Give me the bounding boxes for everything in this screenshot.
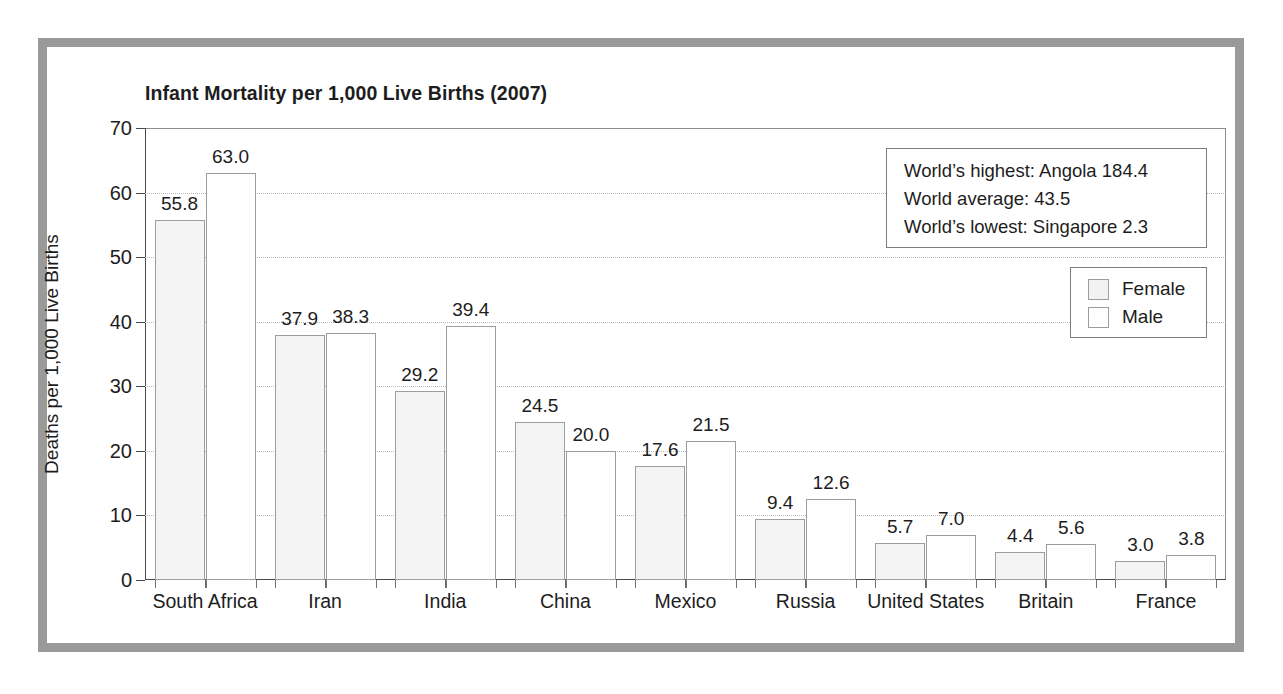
bar-value-label: 5.7 xyxy=(887,516,913,538)
bar-female[interactable] xyxy=(515,422,565,580)
y-tick-label: 10 xyxy=(110,504,132,527)
y-tick-mark xyxy=(136,451,145,452)
legend-item-female[interactable]: Female xyxy=(1088,275,1206,303)
bar-value-label: 4.4 xyxy=(1007,525,1033,547)
x-tick-mark xyxy=(1166,580,1167,588)
legend-item-male[interactable]: Male xyxy=(1088,303,1206,331)
bar-male[interactable] xyxy=(566,451,616,580)
y-axis-title: Deaths per 1,000 Live Births xyxy=(41,234,63,474)
y-tick-mark xyxy=(136,128,145,129)
x-tick-mark xyxy=(806,580,807,588)
y-tick-mark xyxy=(136,515,145,516)
bar-female[interactable] xyxy=(875,543,925,580)
x-category-label: China xyxy=(540,590,591,613)
gridline xyxy=(145,257,1226,258)
bar-female[interactable] xyxy=(995,552,1045,580)
x-tick-mark xyxy=(1096,580,1097,588)
bar-value-label: 39.4 xyxy=(452,299,489,321)
y-tick-mark xyxy=(136,257,145,258)
x-tick-mark xyxy=(256,580,257,588)
x-tick-mark xyxy=(1046,580,1047,588)
x-tick-mark xyxy=(616,580,617,588)
legend-swatch-male-icon xyxy=(1088,307,1109,328)
x-tick-mark xyxy=(515,580,516,588)
bar-value-label: 12.6 xyxy=(813,472,850,494)
legend-label-male: Male xyxy=(1122,306,1163,328)
x-category-label: Iran xyxy=(308,590,342,613)
bar-male[interactable] xyxy=(1046,544,1096,580)
x-tick-mark xyxy=(446,580,447,588)
bar-value-label: 7.0 xyxy=(938,508,964,530)
annotation-box: World’s highest: Angola 184.4 World aver… xyxy=(886,148,1207,248)
plot-top-border xyxy=(145,128,1226,129)
x-tick-mark xyxy=(755,580,756,588)
x-category-label: Mexico xyxy=(655,590,717,613)
x-tick-mark xyxy=(635,580,636,588)
bar-female[interactable] xyxy=(635,466,685,580)
x-tick-mark xyxy=(686,580,687,588)
x-category-label: India xyxy=(424,590,466,613)
bar-female[interactable] xyxy=(395,391,445,580)
plot-right-border xyxy=(1225,128,1226,580)
bar-male[interactable] xyxy=(806,499,856,580)
bar-value-label: 29.2 xyxy=(401,364,438,386)
bar-male[interactable] xyxy=(446,326,496,580)
y-tick-label: 0 xyxy=(121,569,132,592)
chart-title: Infant Mortality per 1,000 Live Births (… xyxy=(145,82,547,105)
y-tick-label: 60 xyxy=(110,181,132,204)
bar-value-label: 3.8 xyxy=(1178,528,1204,550)
x-category-label: United States xyxy=(867,590,984,613)
x-tick-mark xyxy=(736,580,737,588)
bar-female[interactable] xyxy=(275,335,325,580)
bar-female[interactable] xyxy=(155,220,205,580)
annotation-line-lowest: World’s lowest: Singapore 2.3 xyxy=(904,213,1206,241)
y-tick-label: 50 xyxy=(110,246,132,269)
chart-screenshot: Infant Mortality per 1,000 Live Births (… xyxy=(0,0,1283,694)
bar-female[interactable] xyxy=(755,519,805,580)
x-category-label: France xyxy=(1136,590,1197,613)
bar-male[interactable] xyxy=(326,333,376,580)
bar-male[interactable] xyxy=(686,441,736,580)
bar-value-label: 9.4 xyxy=(767,492,793,514)
y-tick-label: 30 xyxy=(110,375,132,398)
y-tick-mark xyxy=(136,580,145,581)
x-tick-mark xyxy=(976,580,977,588)
y-axis-line xyxy=(145,128,146,580)
x-tick-mark xyxy=(1115,580,1116,588)
x-category-label: South Africa xyxy=(152,590,257,613)
x-tick-mark xyxy=(155,580,156,588)
annotation-line-average: World average: 43.5 xyxy=(904,185,1206,213)
y-tick-label: 70 xyxy=(110,117,132,140)
bar-value-label: 38.3 xyxy=(332,306,369,328)
y-tick-mark xyxy=(136,322,145,323)
bar-value-label: 21.5 xyxy=(693,414,730,436)
legend-label-female: Female xyxy=(1122,278,1185,300)
bar-value-label: 24.5 xyxy=(521,395,558,417)
y-tick-mark xyxy=(136,193,145,194)
x-tick-mark xyxy=(206,580,207,588)
x-category-label: Britain xyxy=(1018,590,1073,613)
bar-male[interactable] xyxy=(926,535,976,580)
x-tick-mark xyxy=(566,580,567,588)
bar-value-label: 5.6 xyxy=(1058,517,1084,539)
x-tick-mark xyxy=(395,580,396,588)
annotation-line-highest: World’s highest: Angola 184.4 xyxy=(904,157,1206,185)
bar-value-label: 3.0 xyxy=(1127,534,1153,556)
x-tick-mark xyxy=(926,580,927,588)
bar-female[interactable] xyxy=(1115,561,1165,580)
y-tick-label: 20 xyxy=(110,439,132,462)
x-tick-mark xyxy=(275,580,276,588)
legend-swatch-female-icon xyxy=(1088,279,1109,300)
bar-male[interactable] xyxy=(1166,555,1216,580)
bar-male[interactable] xyxy=(206,173,256,580)
y-tick-label: 40 xyxy=(110,310,132,333)
bar-value-label: 55.8 xyxy=(161,193,198,215)
bar-value-label: 37.9 xyxy=(281,308,318,330)
x-tick-mark xyxy=(995,580,996,588)
x-tick-mark xyxy=(875,580,876,588)
x-category-label: Russia xyxy=(776,590,836,613)
x-tick-mark xyxy=(376,580,377,588)
x-tick-mark xyxy=(856,580,857,588)
x-tick-mark xyxy=(496,580,497,588)
bar-value-label: 17.6 xyxy=(642,439,679,461)
